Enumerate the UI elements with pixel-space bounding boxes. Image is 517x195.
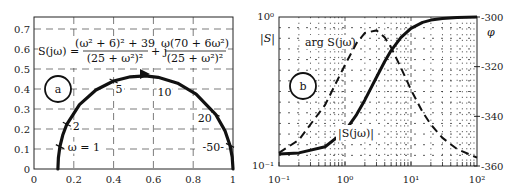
magnitude-label: |S(jω)| [338, 127, 374, 141]
x-tick-label: 10⁻¹ [268, 174, 290, 185]
y-tick-label: 0.7 [14, 24, 30, 35]
x-tick-label: 10⁰ [337, 174, 354, 185]
formula-real-den: (25 + ω²)² [87, 52, 144, 65]
omega-label: 10 [158, 86, 172, 99]
formula-imag-den: (25 + ω²)² [167, 52, 224, 65]
formula-lhs: S(jω) = [38, 45, 79, 58]
x-tick-label: 1 [230, 174, 236, 185]
y-tick-label: 0.4 [14, 84, 30, 95]
x-tick-label: 0.4 [106, 174, 122, 185]
panel-label-a: a [55, 83, 62, 96]
right-tick-label: -340 [481, 111, 503, 122]
x-tick-label: 0.6 [145, 174, 161, 185]
x-tick-label: 10² [469, 174, 486, 185]
panel-b: 10⁻¹10⁰10¹10²10⁻¹10⁰-300-320-340-360 arg… [252, 11, 503, 185]
formula-imag-num: ω(70 + 6ω²) [161, 37, 229, 50]
y-tick-label: 0.3 [14, 104, 30, 115]
omega-label: 20 [198, 112, 212, 125]
y-tick-label: 0.6 [14, 44, 30, 55]
arg-label: arg S(jω) [305, 36, 356, 49]
right-tick-label: -320 [481, 61, 503, 72]
left-tick-label: 10⁰ [257, 11, 274, 22]
axis-ticks-b: 10⁻¹10⁰10¹10²10⁻¹10⁰-300-320-340-360 [252, 11, 503, 185]
y-tick-label: 0.2 [14, 124, 30, 135]
omega-label: ω = 1 [68, 141, 100, 154]
x-tick-label: 10¹ [403, 174, 420, 185]
x-tick-label: 0.2 [66, 174, 82, 185]
formula: S(jω) = (ω² + 6)² + 39 (25 + ω²)² + j ω(… [38, 37, 229, 68]
right-tick-label: -360 [481, 161, 503, 172]
panel-a: 00.20.40.60.8100.10.20.30.40.50.60.7 ω =… [14, 17, 236, 185]
formula-real-num: (ω² + 6)² + 39 [75, 37, 155, 50]
left-tick-label: 10⁻¹ [252, 160, 274, 171]
x-tick-label: 0 [31, 174, 37, 185]
omega-label: 5 [116, 83, 123, 96]
omega-label: 2 [73, 120, 80, 133]
right-axis-label: φ [487, 26, 495, 39]
panel-label-b: b [299, 80, 306, 93]
figure: 00.20.40.60.8100.10.20.30.40.50.60.7 ω =… [0, 0, 517, 195]
x-tick-label: 0.8 [185, 174, 201, 185]
y-tick-label: 0 [24, 164, 30, 175]
y-tick-label: 0.1 [14, 144, 30, 155]
right-tick-label: -300 [481, 12, 503, 23]
omega-label: -50- [203, 141, 225, 154]
y-tick-label: 0.5 [14, 64, 30, 75]
omega-marks: ω = 1251020-50- [56, 79, 234, 154]
left-axis-label: |S| [260, 32, 275, 46]
